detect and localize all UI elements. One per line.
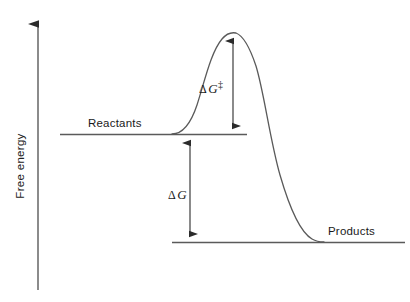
energy-diagram-canvas: Free energy Reactants Products ΔG‡ ΔG (0, 0, 410, 302)
activation-energy-annotation: ΔG‡ (199, 41, 233, 126)
free-energy-var-glyph: G (177, 187, 187, 202)
activation-energy-sup-glyph: ‡ (218, 79, 223, 90)
free-energy-change-label: ΔG (168, 187, 187, 202)
activation-energy-delta-glyph: Δ (199, 82, 207, 96)
reactants-label: Reactants (88, 117, 142, 129)
products-label: Products (328, 225, 375, 237)
reaction-coordinate-curve (172, 33, 324, 242)
free-energy-change-annotation: ΔG (168, 143, 190, 234)
activation-energy-label: ΔG‡ (199, 79, 223, 96)
free-energy-diagram-figure: Free energy Reactants Products ΔG‡ ΔG (0, 0, 410, 302)
activation-energy-var-glyph: G (208, 81, 218, 96)
y-axis-label: Free energy (14, 133, 26, 198)
free-energy-delta-glyph: Δ (168, 188, 176, 202)
